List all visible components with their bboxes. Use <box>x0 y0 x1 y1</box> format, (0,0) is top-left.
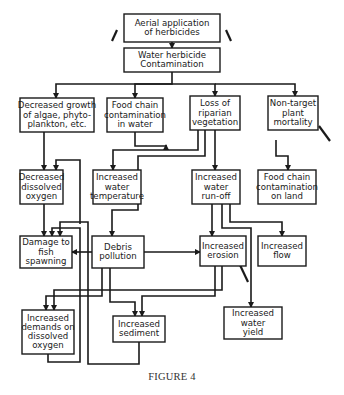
node-erosion: Increasederosion <box>200 236 246 266</box>
node-label-line: of herbicides <box>144 27 200 37</box>
node-riparian: Loss ofriparianvegetation <box>190 96 240 130</box>
node-yield: Increasedwateryield <box>224 307 282 339</box>
node-label-line: oxygen <box>32 340 63 350</box>
node-aerial: Aerial applicationof herbicides <box>124 14 220 42</box>
node-label-line: oxygen <box>26 191 57 201</box>
node-dissolved-o2: Decreaseddissolvedoxygen <box>19 170 65 204</box>
node-label-line: pollution <box>99 251 136 261</box>
node-label-line: vegetation <box>192 117 238 127</box>
node-label-line: sediment <box>119 328 160 338</box>
node-demands-o2: Increaseddemands ondissolvedoxygen <box>21 310 74 354</box>
edge-water-contam-to-nontarget <box>215 84 295 96</box>
nodes-layer: Aerial applicationof herbicidesWater her… <box>18 14 318 354</box>
node-label-line: in water <box>117 119 153 129</box>
node-algae: Decreased growthof algae, phyto-plankton… <box>18 98 96 132</box>
edge-debris-to-sediment <box>110 268 135 316</box>
node-label-line: erosion <box>207 250 238 260</box>
node-nontarget: Non-targetplantmortality <box>268 96 318 130</box>
edge-water-contam-to-algae <box>56 72 172 98</box>
figure-caption: FIGURE 4 <box>0 371 344 382</box>
node-water-contam: Water herbicideContamination <box>124 48 220 72</box>
edge-riparian-to-water-temp <box>113 130 198 170</box>
edge-runoff-to-flow <box>230 204 282 236</box>
node-label-line: flow <box>273 250 291 260</box>
node-flow: Increasedflow <box>258 236 306 266</box>
node-runoff: Increasedwaterrun-off <box>192 170 240 204</box>
break-mark-right <box>226 30 231 41</box>
node-label-line: Contamination <box>140 59 203 69</box>
edge-water-contam-to-food-water <box>135 84 172 98</box>
break-mark-nontarget <box>319 126 330 141</box>
node-label-line: on land <box>271 191 303 201</box>
node-water-temp: Increasedwatertemperature <box>90 170 144 204</box>
node-label-line: spawning <box>26 256 67 266</box>
node-label-line: mortality <box>273 117 312 127</box>
flow-diagram: Aerial applicationof herbicidesWater her… <box>0 0 344 395</box>
node-label-line: plankton, etc. <box>27 119 86 129</box>
break-mark-erosion <box>240 265 248 282</box>
node-food-land: Food chaincontaminationon land <box>256 170 318 204</box>
break-mark-left <box>112 30 117 41</box>
edge-nontarget-to-food-land <box>276 140 288 170</box>
node-debris: Debrispollution <box>92 236 144 268</box>
node-label-line: run-off <box>202 191 232 201</box>
node-label-line: temperature <box>90 191 144 201</box>
edge-water-contam-to-riparian <box>172 84 215 96</box>
node-sediment: Increasedsediment <box>113 316 165 342</box>
node-label-line: yield <box>243 327 264 337</box>
edge-food-water-to-fish <box>135 132 166 146</box>
edge-erosion-to-sediment <box>142 266 215 316</box>
node-food-water: Food chaincontaminationin water <box>104 98 166 132</box>
node-fish: Damage tofishspawning <box>20 236 72 268</box>
